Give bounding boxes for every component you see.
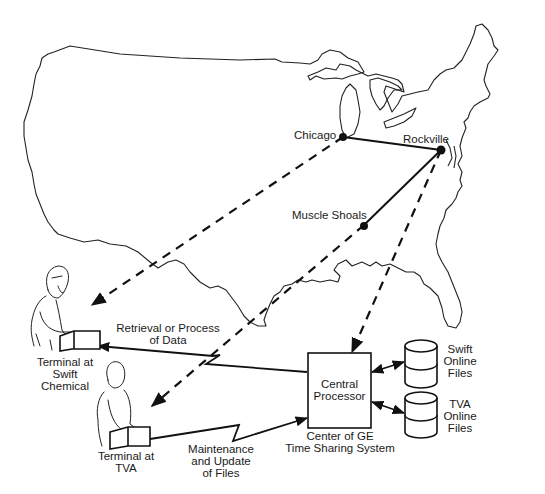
- storage-label-tva-line3: Files: [438, 422, 482, 434]
- comm-label-maintenance: Maintenance and Update of Files: [176, 443, 266, 479]
- tva-terminal-device: [110, 427, 150, 449]
- link-central-tva-files: [372, 402, 404, 413]
- storage-label-swift-line3: Files: [438, 367, 482, 379]
- central-processor-line1: Central: [308, 378, 371, 390]
- central-caption-line1: Center of GE: [280, 430, 400, 442]
- city-label-chicago: Chicago: [294, 129, 336, 141]
- city-dot-rockville: [437, 146, 446, 155]
- storage-label-tva-line1: TVA: [438, 398, 482, 410]
- swift-terminal-device: [60, 331, 100, 351]
- city-label-muscle-shoals: Muscle Shoals: [292, 209, 367, 221]
- city-dot-chicago: [339, 133, 347, 141]
- storage-label-swift: Swift Online Files: [438, 343, 482, 379]
- comm-label-maintenance-line2: and Update: [176, 455, 266, 467]
- storage-label-swift-line1: Swift: [438, 343, 482, 355]
- storage-label-tva-line2: Online: [438, 410, 482, 422]
- storage-label-tva: TVA Online Files: [438, 398, 482, 434]
- comm-label-retrieval: Retrieval or Process of Data: [108, 322, 228, 346]
- comm-label-maintenance-line1: Maintenance: [176, 443, 266, 455]
- city-label-rockville: Rockville: [403, 133, 449, 145]
- link-rockville-central: [352, 150, 441, 352]
- central-caption-line2: Time Sharing System: [280, 442, 400, 454]
- link-muscle-shoals-rockville: [364, 150, 441, 225]
- terminal-label-swift: Terminal at Swift Chemical: [20, 356, 110, 392]
- tva-files-cylinder: [405, 392, 437, 438]
- comm-line-central-to-swift: [98, 346, 307, 372]
- central-processor-line2: Processor: [308, 390, 371, 402]
- link-chicago-swift: [92, 137, 343, 305]
- central-processor-label: Central Processor: [308, 378, 371, 402]
- swift-files-cylinder: [405, 340, 437, 388]
- terminal-label-tva: Terminal at TVA: [86, 450, 166, 474]
- terminal-label-tva-line2: TVA: [86, 462, 166, 474]
- city-dot-muscle-shoals: [360, 222, 368, 230]
- storage-label-swift-line2: Online: [438, 355, 482, 367]
- terminal-label-swift-line2: Swift: [20, 368, 110, 380]
- comm-label-maintenance-line3: of Files: [176, 467, 266, 479]
- central-caption: Center of GE Time Sharing System: [280, 430, 400, 454]
- terminal-label-swift-line3: Chemical: [20, 380, 110, 392]
- terminal-label-tva-line1: Terminal at: [86, 450, 166, 462]
- comm-label-retrieval-line1: Retrieval or Process: [108, 322, 228, 334]
- diagram-canvas: Chicago Rockville Muscle Shoals Retrieva…: [0, 0, 545, 494]
- link-central-swift-files: [372, 362, 404, 372]
- us-map-outline: [24, 24, 498, 328]
- terminal-label-swift-line1: Terminal at: [20, 356, 110, 368]
- comm-label-retrieval-line2: of Data: [108, 334, 228, 346]
